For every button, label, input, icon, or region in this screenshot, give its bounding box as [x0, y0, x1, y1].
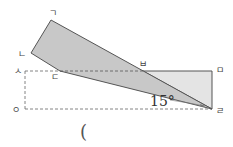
answer-blank: (	[80, 121, 87, 142]
label-nieun: ㄴ	[18, 49, 26, 59]
angle-label: 15°	[150, 93, 175, 109]
folded-flap	[31, 20, 212, 109]
diagram: ㄱ ㄴ ㄷ ㄹ ㅁ ㅂ ㅅ ㅇ 15° (	[0, 0, 233, 147]
label-rieul: ㄹ	[216, 106, 224, 116]
label-giyeok: ㄱ	[49, 8, 57, 18]
label-digeut: ㄷ	[51, 72, 59, 82]
label-mieum: ㅁ	[216, 65, 224, 75]
label-ieung: ㅇ	[12, 105, 20, 115]
label-siot: ㅅ	[14, 66, 22, 76]
label-bieup: ㅂ	[139, 59, 147, 69]
diagram-canvas: ㄱ ㄴ ㄷ ㄹ ㅁ ㅂ ㅅ ㅇ 15° (	[0, 0, 233, 147]
